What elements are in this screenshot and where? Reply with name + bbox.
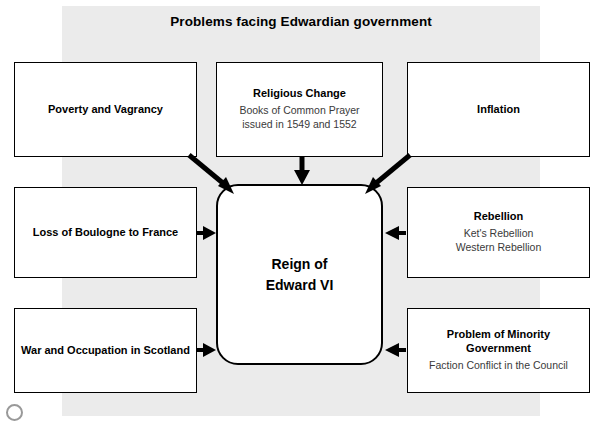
center-line-1: Reign of — [272, 254, 328, 275]
node-heading: Rebellion — [474, 210, 524, 224]
node-heading: Loss of Boulogne to France — [33, 226, 178, 240]
node-poverty-and-vagrancy: Poverty and Vagrancy — [14, 62, 197, 157]
node-war-and-occupation-in-scotland: War and Occupation in Scotland — [14, 308, 197, 393]
arrow-rebellion-to-center — [384, 224, 406, 242]
node-subtext: Books of Common Prayer issued in 1549 an… — [223, 104, 376, 131]
corner-mark-icon — [6, 404, 23, 421]
node-inflation: Inflation — [407, 62, 590, 157]
diagram-canvas: Problems facing Edwardian government Pov… — [0, 0, 607, 426]
node-rebellion: Rebellion Ket's Rebellion Western Rebell… — [407, 187, 590, 278]
arrow-boulogne-to-center — [197, 224, 217, 242]
arrow-minority-government-to-center — [384, 341, 406, 359]
arrow-inflation-to-center — [361, 152, 413, 198]
center-line-2: Edward VI — [266, 275, 334, 296]
arrow-religious-change-to-center — [292, 156, 312, 186]
node-problem-of-minority-government: Problem of Minority Government Faction C… — [407, 308, 590, 393]
node-loss-of-boulogne-to-france: Loss of Boulogne to France — [14, 187, 197, 278]
arrow-scotland-to-center — [197, 341, 217, 359]
node-reign-of-edward-vi: Reign of Edward VI — [216, 184, 383, 365]
arrow-poverty-to-center — [186, 152, 238, 198]
diagram-title: Problems facing Edwardian government — [62, 14, 540, 29]
node-heading: War and Occupation in Scotland — [21, 344, 190, 358]
node-religious-change: Religious Change Books of Common Prayer … — [216, 62, 383, 157]
node-subtext: Ket's Rebellion Western Rebellion — [456, 227, 542, 254]
node-heading: Religious Change — [253, 87, 346, 101]
node-subtext: Faction Conflict in the Council — [429, 359, 568, 373]
node-heading: Poverty and Vagrancy — [48, 103, 163, 117]
node-heading: Inflation — [477, 103, 520, 117]
node-heading: Problem of Minority Government — [414, 328, 583, 356]
